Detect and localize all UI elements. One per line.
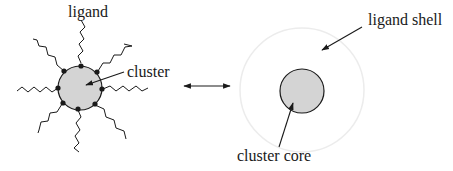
cluster-core-label: cluster core <box>237 147 311 164</box>
ligand-shell-label: ligand shell <box>368 11 443 29</box>
cluster-label: cluster <box>127 63 170 80</box>
ligand-label: ligand <box>68 3 108 21</box>
ligand-chain-bottom <box>74 110 81 152</box>
core-shell-model: ligand shell cluster core <box>237 11 443 164</box>
ligand-shell-pointer-arrow <box>322 27 362 50</box>
cluster-core-pointer-arrow <box>279 103 293 147</box>
ligand-chain-left <box>17 87 58 92</box>
ligand-chain-lower-right <box>95 105 126 139</box>
ligand-chain-lower-left <box>38 104 62 133</box>
ligand-chain-right <box>103 86 148 91</box>
cluster-core-circle <box>280 69 324 113</box>
ligand-cluster-diagram: ligand cluster ligand shell cluster core <box>0 0 453 171</box>
ligated-cluster: ligand cluster <box>17 3 170 152</box>
ligand-chain-upper-left <box>33 39 64 71</box>
ligand-chain-top <box>78 20 85 63</box>
